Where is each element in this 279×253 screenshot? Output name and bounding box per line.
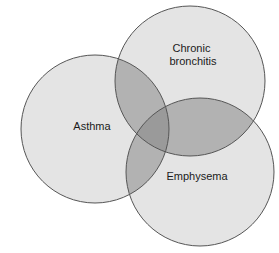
label-emphysema: Emphysema <box>166 170 228 182</box>
label-chronic-bronchitis-line2: bronchitis <box>169 55 217 67</box>
venn-diagram-canvas: Asthma Chronic bronchitis Emphysema <box>0 0 279 253</box>
label-chronic-bronchitis: Chronic bronchitis <box>169 42 217 67</box>
label-chronic-bronchitis-line1: Chronic <box>173 42 211 54</box>
venn-diagram: Asthma Chronic bronchitis Emphysema <box>0 0 279 253</box>
label-asthma: Asthma <box>73 120 111 132</box>
